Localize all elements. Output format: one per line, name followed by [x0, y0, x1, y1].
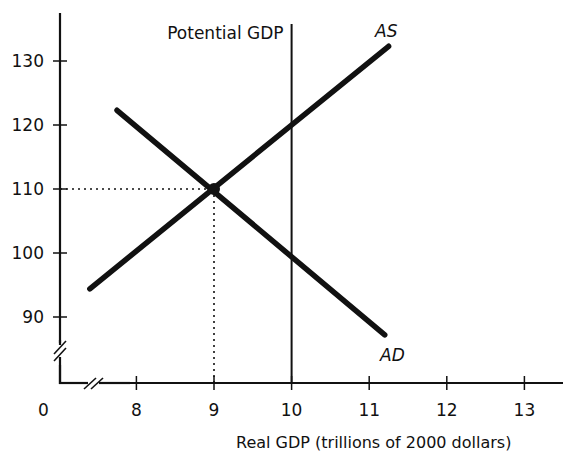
y-tick-label: 120 [12, 115, 44, 135]
axes [52, 13, 563, 390]
ad-label: AD [379, 345, 405, 365]
x-tick-label: 13 [514, 400, 536, 420]
curves: ASAD [90, 21, 405, 365]
x-tick-label: 9 [209, 400, 220, 420]
y-tick-label: 90 [22, 307, 44, 327]
x-axis-break-icon [59, 376, 130, 390]
origin-label: 0 [38, 400, 49, 420]
y-axis-break-icon [52, 340, 68, 384]
as-label: AS [374, 21, 398, 41]
ad-curve [117, 110, 385, 335]
x-axis-title: Real GDP (trillions of 2000 dollars) [236, 433, 511, 452]
potential-gdp-label: Potential GDP [167, 23, 283, 43]
equilibrium-guides [60, 189, 214, 383]
x-tick-label: 11 [358, 400, 380, 420]
y-ticks: 90100110120130 [12, 51, 67, 327]
x-tick-label: 12 [436, 400, 458, 420]
x-tick-label: 10 [281, 400, 303, 420]
y-tick-label: 110 [12, 179, 44, 199]
as-curve [90, 46, 389, 289]
y-tick-label: 130 [12, 51, 44, 71]
y-tick-label: 100 [12, 243, 44, 263]
ad-as-chart: 90100110120130 8910111213 0 Potential GD… [0, 0, 580, 466]
x-tick-label: 8 [131, 400, 142, 420]
equilibrium-point [208, 183, 220, 195]
